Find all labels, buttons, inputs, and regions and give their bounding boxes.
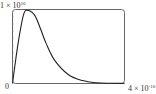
x-min-label: 0 [5, 82, 9, 91]
plot-area [0, 0, 156, 94]
x-max-base: 4 × 10 [128, 84, 149, 93]
plot-frame [13, 10, 125, 84]
x-max-exponent: -10 [149, 84, 156, 89]
distribution-curve [13, 10, 125, 83]
x-max-label: 4 × 10-10 [128, 82, 155, 93]
